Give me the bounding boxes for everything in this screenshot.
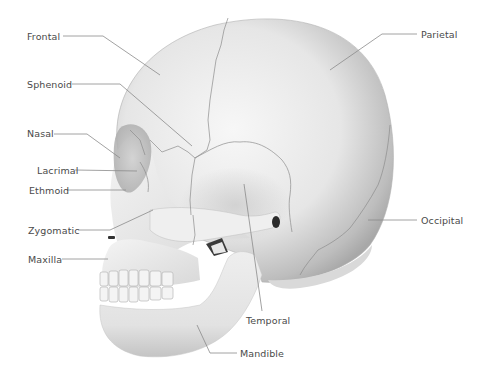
label-ethmoid: Ethmoid [29, 185, 69, 196]
ear-canal [272, 216, 280, 228]
label-lacrimal: Lacrimal [37, 165, 78, 176]
label-nasal: Nasal [27, 128, 54, 139]
label-occipital: Occipital [421, 215, 463, 226]
label-temporal: Temporal [246, 315, 290, 326]
skull-diagram: Frontal Sphenoid Nasal Lacrimal Ethmoid … [0, 0, 485, 376]
label-maxilla: Maxilla [28, 254, 62, 265]
leader-nasal [54, 134, 120, 158]
label-mandible: Mandible [240, 348, 284, 359]
label-zygomatic: Zygomatic [28, 225, 80, 236]
label-parietal: Parietal [421, 29, 458, 40]
label-frontal: Frontal [27, 31, 60, 42]
label-sphenoid: Sphenoid [27, 79, 72, 90]
skull-illustration [0, 0, 485, 376]
